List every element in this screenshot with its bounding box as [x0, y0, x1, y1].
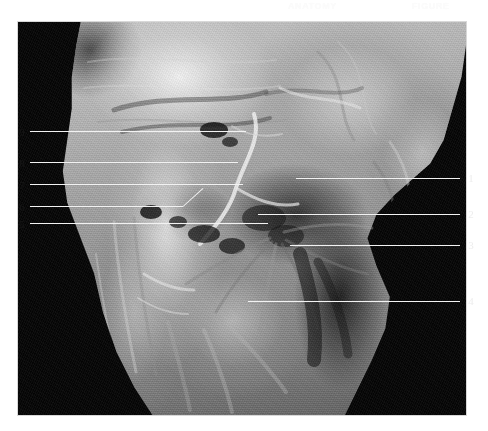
- leader-line-4: [248, 301, 460, 302]
- label-number-1: 1: [465, 172, 477, 184]
- watermark-left: ANATOMY: [288, 1, 337, 11]
- label-number-7: 7: [16, 179, 28, 191]
- label-number-3: 3: [465, 239, 477, 251]
- leader-line-1: [296, 178, 460, 179]
- leader-line-6: [30, 206, 183, 207]
- label-number-2: 2: [465, 208, 477, 220]
- leader-line-9: [30, 131, 246, 132]
- specimen-tissue: [18, 22, 466, 415]
- label-number-8: 8: [16, 157, 28, 169]
- leader-line-5: [30, 223, 268, 224]
- label-number-6: 6: [16, 201, 28, 213]
- figure-root: ANATOMY FIGURE: [0, 0, 488, 431]
- leader-line-2: [258, 214, 460, 215]
- leader-line-3: [290, 245, 460, 246]
- dissection-photograph: [18, 22, 466, 415]
- leader-line-7: [30, 184, 243, 185]
- label-number-5: 5: [16, 218, 28, 230]
- leader-line-8: [30, 162, 238, 163]
- label-number-9: 9: [16, 126, 28, 138]
- label-number-4: 4: [465, 295, 477, 307]
- watermark-right: FIGURE: [412, 1, 450, 11]
